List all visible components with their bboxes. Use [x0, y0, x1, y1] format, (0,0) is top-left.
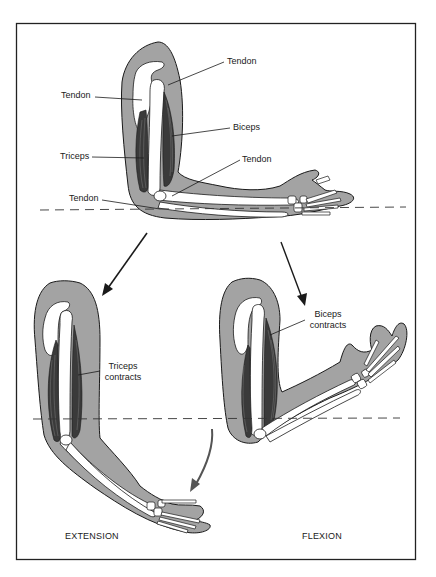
caption-flexion: FLEXION — [302, 531, 342, 541]
label-tendon-top-left: Tendon — [61, 90, 91, 101]
flexion-arm-elbow — [254, 429, 266, 439]
label-biceps: Biceps — [233, 122, 260, 133]
label-triceps: Triceps — [60, 151, 89, 162]
arrow-to-flexion — [281, 242, 307, 306]
extension-motion-curved-arrow — [190, 429, 212, 492]
label-biceps-contracts: Biceps contracts — [306, 309, 350, 331]
arrow-to-extension — [102, 233, 147, 296]
caption-extension: EXTENSION — [65, 531, 119, 541]
label-tendon-elbow-right: Tendon — [242, 154, 272, 165]
diagram-canvas: Tendon Tendon Biceps Triceps Tendon Tend… — [0, 0, 436, 577]
label-triceps-contracts: Triceps contracts — [101, 361, 145, 383]
label-biceps-contracts-line1: Biceps — [306, 309, 350, 320]
extension-arm-humerus — [58, 310, 72, 439]
extension-arm-elbow — [60, 435, 72, 445]
arm-diagram-svg — [0, 0, 436, 577]
label-triceps-contracts-line1: Triceps — [101, 361, 145, 372]
top-arm-elbow — [154, 191, 166, 201]
extension-arm-illustration — [34, 281, 210, 533]
label-triceps-contracts-line2: contracts — [101, 372, 145, 383]
label-tendon-top-right: Tendon — [227, 56, 257, 67]
flexion-arm-humerus — [250, 305, 264, 436]
label-tendon-elbow-left: Tendon — [69, 193, 99, 204]
label-biceps-contracts-line2: contracts — [306, 320, 350, 331]
